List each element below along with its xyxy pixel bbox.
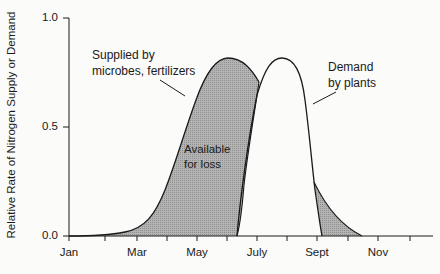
y-tick-label-0.0: 0.0 xyxy=(30,229,58,241)
x-tick-label-sept: Sept xyxy=(292,246,342,258)
loss-annotation-line2: for loss xyxy=(184,157,230,172)
loss-annotation-line1: Available xyxy=(184,142,230,157)
supply-leader-line xyxy=(160,80,185,96)
loss-annotation: Available for loss xyxy=(184,142,230,172)
y-axis-label: Relative Rate of Nitrogen Supply or Dema… xyxy=(5,0,19,255)
supply-annotation: Supplied by microbes, fertilizers xyxy=(92,47,195,79)
chart-canvas xyxy=(0,0,440,274)
available-for-loss-shaded-area xyxy=(69,58,259,236)
supply-annotation-line2: microbes, fertilizers xyxy=(92,63,195,79)
demand-annotation-line2: by plants xyxy=(328,75,376,91)
y-tick-label-0.5: 0.5 xyxy=(30,120,58,132)
demand-leader-line xyxy=(313,92,336,104)
demand-annotation-line1: Demand xyxy=(328,59,376,75)
x-tick-label-jan: Jan xyxy=(44,246,94,258)
x-tick-label-july: July xyxy=(232,246,282,258)
x-tick-label-may: May xyxy=(172,246,222,258)
y-tick-label-1.0: 1.0 xyxy=(30,11,58,23)
x-tick-label-mar: Mar xyxy=(112,246,162,258)
x-ticks xyxy=(69,236,410,241)
supply-annotation-line1: Supplied by xyxy=(92,47,195,63)
demand-annotation: Demand by plants xyxy=(328,59,376,91)
x-tick-label-nov: Nov xyxy=(353,246,403,258)
